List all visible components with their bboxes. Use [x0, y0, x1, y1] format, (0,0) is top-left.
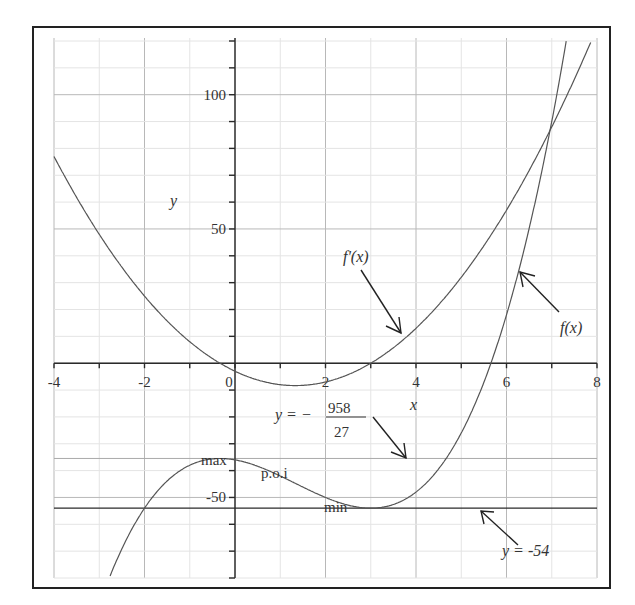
max-label: max: [201, 452, 227, 468]
y-tick-label: -50: [206, 489, 226, 505]
y-tick-label: 100: [204, 87, 227, 103]
x-tick-label: -4: [48, 374, 61, 390]
fprime-curve: [54, 43, 591, 386]
min-label: min: [324, 499, 348, 515]
fraction-denominator: 27: [334, 424, 350, 440]
x-tick-label: 0: [225, 374, 233, 390]
poi-eq-arrow-icon: [373, 417, 406, 458]
y54-arrow-icon: [481, 511, 518, 545]
x-tick-label: -2: [138, 374, 151, 390]
x-tick-label: 6: [503, 374, 511, 390]
function-plot: -4-202468-5050100 y x f'(x) f(x) y = − 9…: [0, 0, 635, 605]
y-minus-54-label: y = -54: [500, 542, 549, 560]
poi-label: p.o.i: [261, 465, 288, 481]
x-tick-label: 8: [593, 374, 601, 390]
fraction-numerator: 958: [328, 400, 351, 416]
y-axis-label: y: [168, 192, 178, 210]
y-tick-label: 50: [211, 221, 226, 237]
f-arrow-icon: [520, 272, 559, 312]
fprime-label: f'(x): [343, 248, 369, 266]
tick-labels: -4-202468-5050100: [48, 87, 601, 506]
x-tick-label: 4: [412, 374, 420, 390]
poi-equation-label: y = − 958 27: [273, 400, 366, 440]
x-axis-label: x: [409, 396, 417, 413]
fprime-arrow-icon: [361, 270, 401, 333]
f-label: f(x): [560, 319, 582, 337]
plot-frame: [33, 27, 610, 588]
svg-text:y = −: y = −: [273, 406, 312, 424]
